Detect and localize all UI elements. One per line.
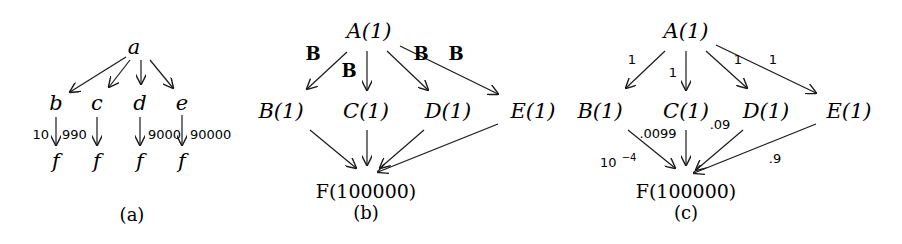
edge-label-b-f: 10 bbox=[32, 127, 49, 142]
edge-label-A-E: B bbox=[448, 43, 463, 64]
edge-label-A-D: 1 bbox=[734, 52, 742, 67]
node-d: d bbox=[133, 91, 146, 115]
node-B: B(1) bbox=[576, 99, 622, 123]
node-B: B(1) bbox=[257, 99, 303, 123]
node-D: D(1) bbox=[742, 99, 790, 123]
edge-label-C-F: .0099 bbox=[639, 126, 676, 141]
node-E: E(1) bbox=[509, 99, 555, 123]
node-D: D(1) bbox=[424, 99, 472, 123]
node-b: b bbox=[49, 91, 62, 115]
edge-label-d-f: 9000 bbox=[148, 127, 181, 142]
figure-canvas: a b c d e 10 990 9000 90000 f f f f (a) … bbox=[0, 0, 902, 244]
edge-label-B-F: 10 −4 bbox=[600, 152, 636, 171]
node-e: e bbox=[176, 91, 188, 115]
edge-label-c-f: 990 bbox=[62, 127, 87, 142]
node-C: C(1) bbox=[663, 99, 709, 123]
node-a: a bbox=[128, 35, 141, 59]
node-f-4: f bbox=[176, 149, 189, 173]
panel-b: A(1) B B B B B(1) C(1) D(1) E(1) F(10000… bbox=[257, 19, 555, 223]
caption-b: (b) bbox=[353, 202, 379, 223]
node-A: A(1) bbox=[345, 19, 392, 43]
panel-c: A(1) 1 1 1 1 B(1) C(1) D(1) E(1) .0099 .… bbox=[576, 19, 871, 223]
edge-label-e-f: 90000 bbox=[190, 127, 231, 142]
edge-label-A-B: B bbox=[305, 43, 320, 64]
edge-label-A-C: B bbox=[341, 60, 356, 81]
node-f-3: f bbox=[134, 149, 147, 173]
node-f-1: f bbox=[50, 149, 63, 173]
node-C: C(1) bbox=[343, 99, 389, 123]
node-f-2: f bbox=[91, 149, 104, 173]
caption-a: (a) bbox=[120, 204, 145, 225]
node-F: F(100000) bbox=[636, 180, 737, 202]
edge-label-A-E: 1 bbox=[769, 52, 777, 67]
panel-a: a b c d e 10 990 9000 90000 f f f f (a) bbox=[32, 35, 231, 225]
edge-label-D-F: .09 bbox=[710, 117, 731, 132]
edge-label-A-B: 1 bbox=[628, 52, 636, 67]
edge-label-E-F: .9 bbox=[769, 151, 781, 166]
edge-label-A-D: B bbox=[413, 43, 428, 64]
node-F: F(100000) bbox=[316, 180, 417, 202]
edge-label-A-C: 1 bbox=[669, 65, 677, 80]
node-A: A(1) bbox=[662, 19, 709, 43]
caption-c: (c) bbox=[674, 202, 698, 223]
node-E: E(1) bbox=[825, 99, 871, 123]
node-c: c bbox=[91, 91, 103, 115]
